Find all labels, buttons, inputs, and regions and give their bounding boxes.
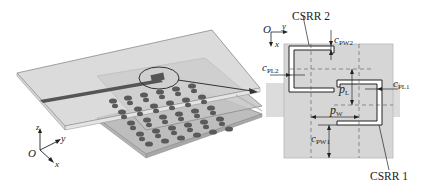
c-pl2-label: cPL2 bbox=[262, 61, 279, 75]
c-pw2-label: cPW2 bbox=[334, 33, 353, 47]
unit-cell-top-view bbox=[266, 16, 400, 170]
axis-origin-label: O bbox=[28, 147, 36, 159]
c-pl1-label: cPL1 bbox=[393, 77, 410, 91]
axis-y-2d-label: y bbox=[281, 21, 286, 31]
left-feed-strip bbox=[266, 83, 284, 117]
3d-structure bbox=[17, 30, 262, 158]
axis-y-label: y bbox=[60, 133, 66, 144]
axis-x-2d-label: x bbox=[274, 39, 279, 49]
csrr1-label: CSRR 1 bbox=[370, 170, 408, 182]
csrr2-label: CSRR 2 bbox=[292, 10, 330, 22]
axis-x-label: x bbox=[54, 159, 59, 169]
figure: z y O x bbox=[0, 0, 426, 189]
3d-axes bbox=[38, 128, 61, 163]
axis-origin-2d-label: O bbox=[263, 23, 271, 35]
